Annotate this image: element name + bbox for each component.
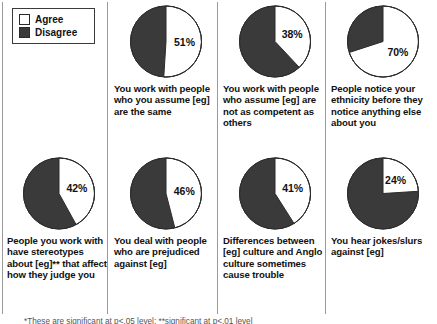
pie-value-label: 24% bbox=[385, 174, 407, 186]
chart-cell: 41% Differences between [eg] culture and… bbox=[223, 156, 327, 281]
pie-assume-not-competent: 38% bbox=[223, 4, 327, 80]
pie-value-label: 70% bbox=[387, 46, 409, 58]
chart-cell: 51% You work with people who you assume … bbox=[114, 4, 218, 117]
pie-jokes-slurs: 24% bbox=[331, 156, 435, 232]
pie-svg: 70% bbox=[344, 4, 422, 80]
pie-caption: You hear jokes/slurs against [eg] bbox=[331, 235, 435, 258]
chart-cell: 24% You hear jokes/slurs against [eg] bbox=[331, 156, 435, 258]
chart-cell: 70% People notice your ethnicity before … bbox=[331, 4, 435, 129]
pie-caption: You deal with people who are prejudiced … bbox=[114, 235, 218, 269]
footnote: *These are significant at p<.05 level; *… bbox=[24, 317, 424, 324]
pie-assume-same: 51% bbox=[114, 4, 218, 80]
pie-caption: Differences between [eg] culture and Ang… bbox=[223, 235, 327, 281]
pie-svg: 46% bbox=[127, 156, 205, 232]
pie-svg: 41% bbox=[236, 156, 314, 232]
pie-svg: 42% bbox=[20, 156, 98, 232]
pie-prejudiced: 46% bbox=[114, 156, 218, 232]
pie-value-label: 42% bbox=[66, 182, 88, 194]
pie-svg: 24% bbox=[344, 156, 422, 232]
pie-caption: People you work with have stereotypes ab… bbox=[7, 235, 111, 281]
chart-cell: 42% People you work with have stereotype… bbox=[7, 156, 111, 281]
pie-svg: 38% bbox=[236, 4, 314, 80]
pie-culture-differences: 41% bbox=[223, 156, 327, 232]
pie-caption: You work with people who assume [eg] are… bbox=[223, 83, 327, 129]
pie-chart-figure: Agree Disagree 51% You work with people … bbox=[0, 0, 437, 324]
pie-caption: You work with people who you assume [eg]… bbox=[114, 83, 218, 117]
pie-value-label: 46% bbox=[174, 185, 196, 197]
pie-value-label: 38% bbox=[282, 28, 304, 40]
pie-stereotypes: 42% bbox=[7, 156, 111, 232]
pie-notice-ethnicity: 70% bbox=[331, 4, 435, 80]
pie-value-label: 41% bbox=[282, 182, 304, 194]
pie-caption: People notice your ethnicity before they… bbox=[331, 83, 435, 129]
chart-cell: 46% You deal with people who are prejudi… bbox=[114, 156, 218, 269]
pie-grid: 51% You work with people who you assume … bbox=[0, 0, 437, 312]
pie-value-label: 51% bbox=[174, 36, 196, 48]
chart-cell: 38% You work with people who assume [eg]… bbox=[223, 4, 327, 129]
pie-svg: 51% bbox=[127, 4, 205, 80]
